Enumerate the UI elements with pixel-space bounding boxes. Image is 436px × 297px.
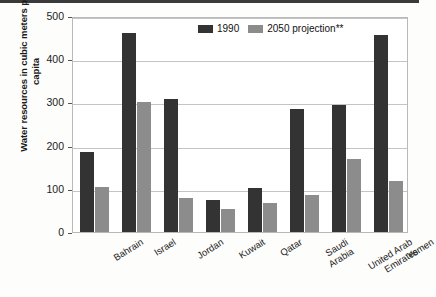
bar-saudi-arabia-1990: [290, 109, 304, 232]
legend-label-2050: 2050 projection**: [267, 23, 343, 34]
legend-swatch-1990-icon: [198, 25, 213, 33]
legend-label-1990: 1990: [217, 23, 239, 34]
x-axis-label: Kuwait: [237, 237, 267, 261]
bar-jordan-2050: [179, 198, 193, 232]
x-axis-label: Israel: [153, 237, 178, 258]
chart-legend: 1990 2050 projection**: [198, 23, 343, 34]
y-axis-tick-labels: 0100200300400500: [0, 17, 68, 233]
bar-jordan-1990: [164, 99, 178, 232]
x-axis-label: Saudi Arabia: [321, 237, 355, 269]
x-axis-label: Bahrain: [112, 237, 145, 263]
x-axis-label: Jordan: [195, 237, 225, 261]
bar-kuwait-2050: [221, 209, 235, 232]
x-axis-label: Qatar: [279, 237, 305, 258]
bar-bahrain-2050: [95, 187, 109, 232]
bar-series-container: [73, 18, 407, 232]
bar-bahrain-1990: [80, 152, 94, 232]
legend-item-1990: 1990: [198, 23, 239, 34]
bar-united-arab-emirates-2050: [347, 159, 361, 232]
y-axis-tick-label: 0: [0, 226, 64, 238]
y-axis-tick-label: 200: [0, 140, 64, 152]
y-axis-tick-label: 500: [0, 10, 64, 22]
bar-yemen-2050: [389, 181, 403, 232]
y-axis-tick-label: 300: [0, 96, 64, 108]
bar-qatar-2050: [263, 203, 277, 232]
y-axis-tick-label: 400: [0, 53, 64, 65]
bar-yemen-1990: [374, 35, 388, 232]
bar-israel-1990: [122, 33, 136, 232]
bar-saudi-arabia-2050: [305, 195, 319, 232]
x-axis-category-labels: BahrainIsraelJordanKuwaitQatarSaudi Arab…: [72, 233, 408, 297]
bar-united-arab-emirates-1990: [332, 105, 346, 232]
y-axis-tick-label: 100: [0, 183, 64, 195]
plot-area: [72, 17, 408, 233]
legend-item-2050: 2050 projection**: [248, 23, 343, 34]
bar-kuwait-1990: [206, 200, 220, 232]
bar-qatar-1990: [248, 188, 262, 232]
bar-israel-2050: [137, 102, 151, 232]
legend-swatch-2050-icon: [248, 25, 263, 33]
